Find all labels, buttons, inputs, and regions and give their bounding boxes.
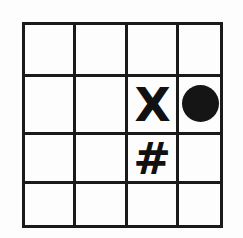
grid-cell-r4c2[interactable] — [76, 184, 125, 225]
grid-cell-r1c1[interactable] — [25, 25, 73, 74]
x-letter-icon: X — [128, 78, 176, 130]
grid-cell-r2c2[interactable] — [76, 77, 125, 132]
grid-cell-r1c4[interactable] — [179, 25, 220, 74]
grid-cell-r4c3[interactable] — [128, 184, 176, 225]
figure-canvas: X # — [0, 0, 243, 238]
grid-cell-r4c1[interactable] — [25, 184, 73, 225]
grid-container — [22, 22, 223, 228]
grid-cell-r3c2[interactable] — [76, 135, 125, 181]
grid-cell-r2c1[interactable] — [25, 77, 73, 132]
hash-symbol-icon: # — [128, 134, 176, 182]
grid-vline-5 — [220, 22, 223, 228]
grid-cell-r4c4[interactable] — [179, 184, 220, 225]
grid-cell-r1c3[interactable] — [128, 25, 176, 74]
grid-cell-r1c2[interactable] — [76, 25, 125, 74]
grid-cell-r3c1[interactable] — [25, 135, 73, 181]
filled-circle-icon — [182, 85, 219, 122]
grid-hline-5 — [22, 225, 223, 228]
grid-cell-r3c4[interactable] — [179, 135, 220, 181]
